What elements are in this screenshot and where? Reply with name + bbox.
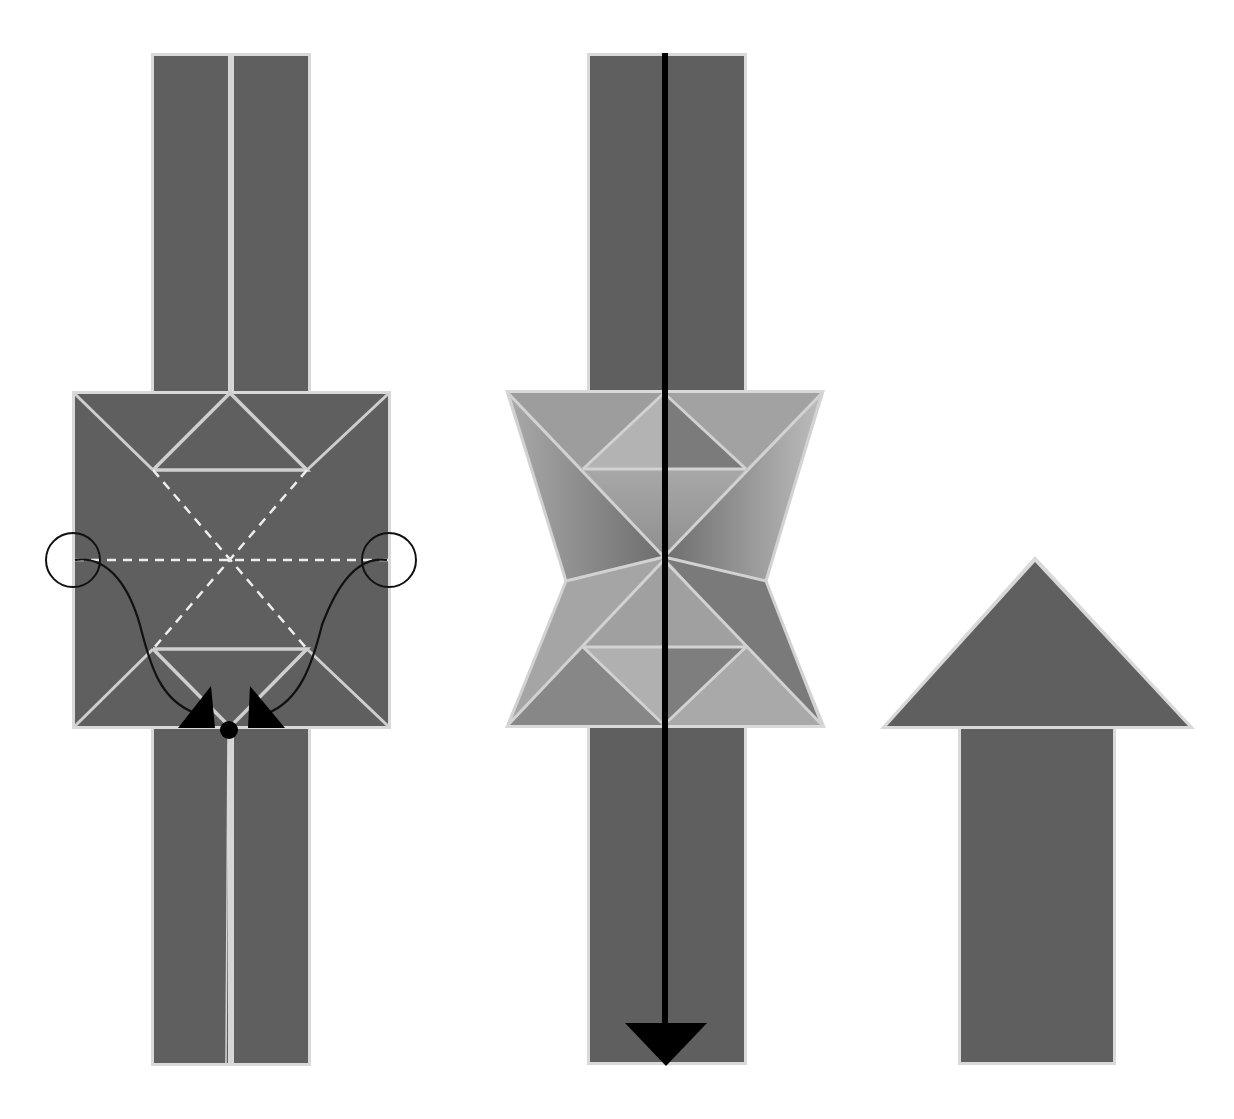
origami-diagram <box>0 0 1234 1119</box>
step-3-figure <box>880 556 1195 1065</box>
arrow-stem-shape <box>961 729 1113 1062</box>
step-1-figure <box>46 53 416 1066</box>
step-2-figure <box>505 53 826 1066</box>
target-dot-icon <box>220 721 238 739</box>
square-base <box>72 391 391 729</box>
arrow-head-shape <box>887 562 1188 726</box>
